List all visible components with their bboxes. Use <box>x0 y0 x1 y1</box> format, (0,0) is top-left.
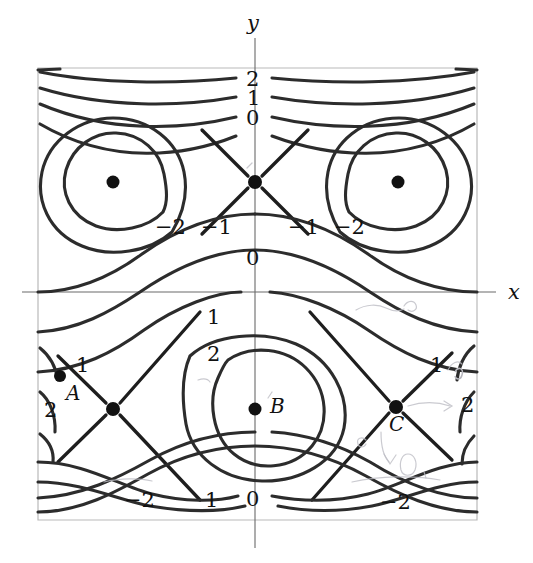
y-axis-label: y <box>247 13 259 34</box>
contour-left-edge-arc-3 <box>40 434 53 462</box>
contour-label-mid-left-neg2: −2 <box>155 217 186 238</box>
pencil-zero-glyph <box>400 454 416 475</box>
contour-label-right-2: 2 <box>461 395 474 416</box>
pencil-tick-near-saddle-top <box>247 163 252 168</box>
contour-right-edge-arc-1 <box>457 346 474 380</box>
contour-top-left-corner-snip <box>38 69 60 70</box>
point-label-c: C <box>389 414 404 434</box>
pencil-smudge-near-b <box>198 379 210 382</box>
contour-right-edge-arc-3 <box>462 436 474 464</box>
x-axis-label: x <box>508 282 520 303</box>
contour-top-right-corner-snip <box>456 69 477 70</box>
separatrix-lower-right-saddle-ne <box>403 353 452 401</box>
contour-label-mid-left-neg1: −1 <box>201 217 232 238</box>
contour-plot-figure: x y 2 1 0 −2 −1 −1 −2 0 1 2 1 2 1 2 −2 1… <box>0 0 533 563</box>
contour-curves <box>38 69 477 512</box>
contour-label-bottom-neg2-left: −2 <box>124 490 155 511</box>
contour-label-mid-0: 0 <box>246 248 259 269</box>
separatrix-top-saddle-nw <box>202 130 248 176</box>
dot-point-a <box>54 370 66 382</box>
contour-label-lower-mid-2: 2 <box>207 344 220 365</box>
point-label-a: A <box>66 383 80 403</box>
contour-label-bottom-0: 0 <box>246 489 259 510</box>
dot-min-b <box>249 403 262 416</box>
contour-label-left-1: 1 <box>76 355 89 376</box>
dot-saddle-lower-left <box>106 402 120 416</box>
contour-level-1-top-right <box>272 88 474 104</box>
contour-label-bottom-1: 1 <box>205 490 218 511</box>
contour-level-2-top-right <box>272 72 474 82</box>
separatrix-lower-right-saddle-nw <box>310 312 389 401</box>
point-label-b: B <box>270 396 285 416</box>
contour-level-1-top-left <box>40 88 236 104</box>
contour-label-mid-right-neg1: −1 <box>288 217 319 238</box>
separatrix-lower-right-saddle-se <box>403 413 452 460</box>
pencil-arrow-to-c <box>408 403 450 406</box>
contour-label-top-0: 0 <box>246 108 259 129</box>
contour-label-lower-mid-1: 1 <box>207 307 220 328</box>
critical-point-dots <box>54 175 405 416</box>
contour-plot-svg <box>0 0 533 563</box>
contour-label-right-1: 1 <box>430 355 443 376</box>
contour-label-left-2: 2 <box>44 400 57 421</box>
pencil-loop-upper-right <box>404 301 416 311</box>
pencil-arrow-down-from-c <box>381 432 389 462</box>
dot-saddle-top <box>248 175 262 189</box>
contour-level-2-top-left <box>40 72 236 82</box>
pencil-arrowhead-to-c <box>444 401 452 411</box>
dot-max-upper-left <box>107 176 120 189</box>
separatrix-lower-left-saddle-sw <box>58 415 106 462</box>
dot-max-upper-right <box>392 176 405 189</box>
contour-label-mid-right-neg2: −2 <box>334 217 365 238</box>
separatrix-top-saddle-ne <box>262 130 308 176</box>
pencil-arrowhead-down <box>384 454 396 464</box>
contour-label-bottom-neg2-right: −2 <box>380 492 411 513</box>
